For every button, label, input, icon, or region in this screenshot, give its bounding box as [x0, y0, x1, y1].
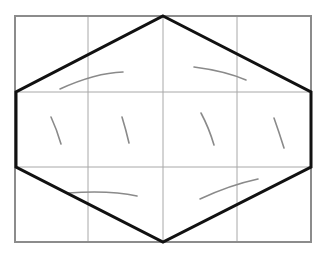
- tick-mark: [68, 192, 137, 196]
- tick-mark: [201, 113, 214, 145]
- tick-mark: [122, 117, 129, 143]
- tick-mark: [194, 67, 246, 80]
- grid-lines: [15, 16, 311, 242]
- tick-mark: [200, 179, 258, 199]
- tick-mark: [60, 72, 123, 89]
- congruence-tick-marks: [51, 67, 284, 199]
- tick-mark: [51, 117, 61, 144]
- hexagon-grid-diagram: [0, 0, 315, 258]
- tick-mark: [274, 118, 284, 148]
